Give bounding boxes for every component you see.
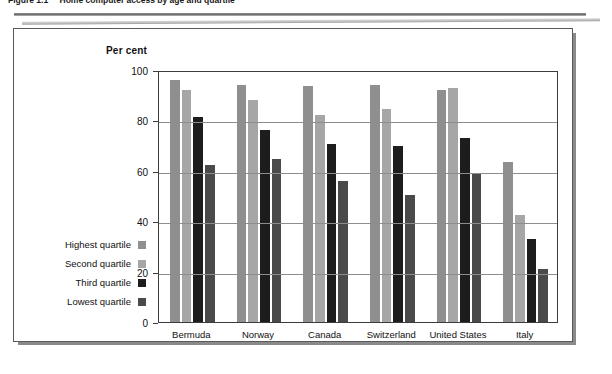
- bar[interactable]: [205, 165, 215, 323]
- legend-item-label: Third quartile: [76, 277, 131, 288]
- x-axis-tick-label: Canada: [308, 329, 341, 340]
- x-axis-tick-label: Bermuda: [172, 329, 211, 340]
- chart-panel: Per cent 020406080100 BermudaNorwayCanad…: [13, 28, 573, 342]
- bar[interactable]: [503, 162, 513, 322]
- x-axis-tick-label: Switzerland: [367, 329, 416, 340]
- gridline: [159, 122, 557, 123]
- y-axis-tick-mark: [153, 323, 158, 324]
- bar[interactable]: [515, 215, 525, 322]
- bar[interactable]: [315, 115, 325, 322]
- x-axis-tick-label: United States: [429, 329, 486, 340]
- bar[interactable]: [437, 90, 447, 322]
- gridline: [159, 223, 557, 224]
- bar[interactable]: [338, 181, 348, 322]
- figure-number: Figure 1.1: [8, 0, 48, 5]
- legend-item-label: Lowest quartile: [67, 296, 131, 307]
- bar-group: [426, 72, 493, 322]
- legend-item-label: Highest quartile: [65, 239, 131, 250]
- bar-layer: [159, 72, 557, 322]
- bar-group: [159, 72, 226, 322]
- y-axis-title: Per cent: [106, 45, 147, 56]
- chart-legend: Highest quartileSecond quartileThird qua…: [24, 235, 146, 311]
- y-axis-tick-label: 40: [118, 217, 148, 228]
- legend-swatch-icon: [138, 241, 146, 249]
- bar-group: [292, 72, 359, 322]
- bar-group: [226, 72, 293, 322]
- y-axis-tick-label: 80: [118, 116, 148, 127]
- header-rule-secondary: [22, 18, 600, 25]
- gridline: [159, 274, 557, 275]
- x-axis-labels: BermudaNorwayCanadaSwitzerlandUnited Sta…: [158, 329, 558, 345]
- legend-swatch-icon: [138, 260, 146, 268]
- figure-caption: Figure 1.1 Home computer access by age a…: [8, 0, 478, 6]
- y-axis-tick-mark: [153, 121, 158, 122]
- header-rule-primary: [14, 13, 586, 16]
- chart: Per cent 020406080100 BermudaNorwayCanad…: [14, 29, 572, 341]
- bar[interactable]: [460, 138, 470, 322]
- bar[interactable]: [248, 100, 258, 322]
- legend-item[interactable]: Second quartile: [24, 254, 146, 273]
- y-axis-tick-label: 100: [118, 66, 148, 77]
- figure-caption-text: Home computer access by age and quartile: [60, 0, 235, 5]
- bar[interactable]: [182, 90, 192, 322]
- legend-item[interactable]: Highest quartile: [24, 235, 146, 254]
- y-axis-tick-mark: [153, 222, 158, 223]
- y-axis-tick-mark: [153, 273, 158, 274]
- y-axis-tick-label: 0: [118, 318, 148, 329]
- bar[interactable]: [370, 85, 380, 322]
- bar[interactable]: [327, 144, 337, 322]
- legend-swatch-icon: [138, 279, 146, 287]
- bar[interactable]: [260, 130, 270, 322]
- y-axis-tick-mark: [153, 71, 158, 72]
- bar[interactable]: [237, 85, 247, 322]
- bar[interactable]: [193, 117, 203, 322]
- bar[interactable]: [538, 269, 548, 322]
- legend-swatch-icon: [138, 298, 146, 306]
- bar[interactable]: [272, 159, 282, 322]
- x-axis-tick-label: Italy: [516, 329, 533, 340]
- bar[interactable]: [472, 173, 482, 322]
- bar[interactable]: [170, 80, 180, 322]
- y-axis-tick-mark: [153, 172, 158, 173]
- x-axis-tick-label: Norway: [242, 329, 274, 340]
- legend-item[interactable]: Third quartile: [24, 273, 146, 292]
- bar-group: [359, 72, 426, 322]
- bar-group: [492, 72, 559, 322]
- bar[interactable]: [405, 195, 415, 322]
- y-axis-tick-label: 60: [118, 166, 148, 177]
- legend-item-label: Second quartile: [65, 258, 131, 269]
- bar[interactable]: [527, 239, 537, 322]
- bar[interactable]: [382, 109, 392, 322]
- plot-area: [158, 71, 558, 323]
- legend-item[interactable]: Lowest quartile: [24, 292, 146, 311]
- gridline: [159, 173, 557, 174]
